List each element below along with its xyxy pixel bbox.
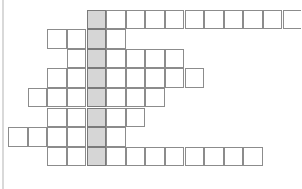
crossword-cell[interactable] [145,10,165,30]
crossword-cell-letter [88,109,106,127]
crossword-cell[interactable] [126,88,146,108]
crossword-cell-highlighted[interactable] [87,108,107,128]
crossword-cell[interactable] [185,68,205,88]
crossword-cell[interactable] [165,10,185,30]
crossword-cell-letter [48,148,66,166]
crossword-cell[interactable] [106,147,126,167]
crossword-cell[interactable] [106,29,126,49]
crossword-cell-letter [107,148,125,166]
crossword-cell[interactable] [126,68,146,88]
crossword-grid [0,0,301,189]
crossword-cell-letter [127,89,145,107]
crossword-cell[interactable] [67,29,87,49]
crossword-cell-letter [146,50,164,68]
crossword-cell-letter [48,89,66,107]
crossword-cell[interactable] [126,10,146,30]
crossword-cell-letter [48,30,66,48]
crossword-cell-letter [186,11,204,29]
crossword-cell-letter [68,109,86,127]
crossword-cell[interactable] [67,49,87,69]
crossword-cell-letter [68,128,86,146]
crossword-cell-letter [88,50,106,68]
crossword-cell-highlighted[interactable] [87,10,107,30]
crossword-cell-letter [107,69,125,87]
crossword-cell-highlighted[interactable] [87,68,107,88]
crossword-cell[interactable] [145,88,165,108]
crossword-cell-letter [68,50,86,68]
crossword-cell[interactable] [145,147,165,167]
crossword-cell-letter [107,50,125,68]
crossword-cell-letter [107,89,125,107]
crossword-cell-letter [127,148,145,166]
crossword-cell-letter [284,11,302,29]
crossword-cell-letter [88,89,106,107]
crossword-cell[interactable] [283,10,302,30]
crossword-cell[interactable] [67,88,87,108]
crossword-cell[interactable] [47,147,67,167]
crossword-cell-letter [88,69,106,87]
crossword-cell-letter [244,148,262,166]
crossword-cell[interactable] [106,88,126,108]
crossword-cell-highlighted[interactable] [87,29,107,49]
crossword-cell[interactable] [126,108,146,128]
crossword-cell[interactable] [106,49,126,69]
crossword-cell-letter [244,11,262,29]
crossword-cell[interactable] [185,147,205,167]
crossword-cell[interactable] [47,108,67,128]
crossword-cell[interactable] [47,127,67,147]
crossword-cell-letter [166,69,184,87]
crossword-cell[interactable] [165,68,185,88]
crossword-cell-letter [107,128,125,146]
crossword-cell[interactable] [224,10,244,30]
crossword-cell[interactable] [106,127,126,147]
crossword-cell-letter [166,148,184,166]
crossword-cell[interactable] [67,127,87,147]
crossword-cell[interactable] [263,10,283,30]
crossword-cell[interactable] [185,10,205,30]
crossword-cell[interactable] [67,147,87,167]
crossword-cell-letter [48,69,66,87]
crossword-cell[interactable] [28,88,48,108]
crossword-cell[interactable] [165,49,185,69]
crossword-cell[interactable] [243,10,263,30]
crossword-cell-letter [68,30,86,48]
crossword-cell[interactable] [47,29,67,49]
crossword-cell-letter [29,89,47,107]
crossword-cell-highlighted[interactable] [87,147,107,167]
crossword-cell-letter [166,11,184,29]
crossword-cell[interactable] [47,68,67,88]
crossword-cell-letter [225,148,243,166]
crossword-cell[interactable] [126,147,146,167]
crossword-cell[interactable] [67,108,87,128]
crossword-cell[interactable] [145,68,165,88]
crossword-cell[interactable] [67,68,87,88]
crossword-cell-letter [48,128,66,146]
crossword-cell-letter [127,69,145,87]
crossword-cell[interactable] [106,68,126,88]
crossword-cell-letter [225,11,243,29]
crossword-cell[interactable] [224,147,244,167]
crossword-cell[interactable] [106,10,126,30]
crossword-cell-letter [88,128,106,146]
crossword-cell[interactable] [106,108,126,128]
crossword-cell[interactable] [165,147,185,167]
crossword-cell-letter [29,128,47,146]
crossword-cell-letter [88,30,106,48]
crossword-cell-letter [68,69,86,87]
crossword-cell-highlighted[interactable] [87,127,107,147]
crossword-cell[interactable] [126,49,146,69]
crossword-cell-letter [166,50,184,68]
crossword-cell-letter [107,30,125,48]
crossword-cell-letter [127,50,145,68]
crossword-cell[interactable] [8,127,28,147]
crossword-cell-letter [146,69,164,87]
crossword-cell[interactable] [243,147,263,167]
crossword-cell-letter [107,11,125,29]
crossword-cell[interactable] [28,127,48,147]
crossword-cell[interactable] [145,49,165,69]
crossword-cell[interactable] [204,147,224,167]
crossword-cell[interactable] [47,88,67,108]
crossword-cell-highlighted[interactable] [87,49,107,69]
crossword-cell-highlighted[interactable] [87,88,107,108]
crossword-cell[interactable] [204,10,224,30]
